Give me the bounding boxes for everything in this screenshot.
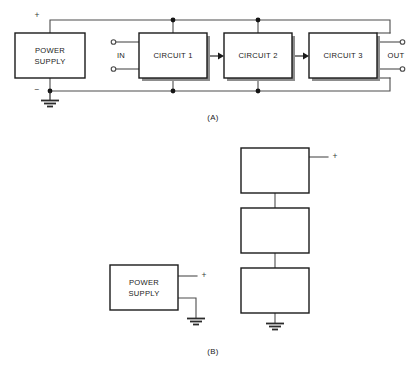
out-terminal-bottom-icon <box>400 67 405 72</box>
input-terminals <box>111 40 139 72</box>
caption-panel-b: (B) <box>207 347 218 356</box>
block-stage-bottom <box>241 268 309 313</box>
out-terminal-top-icon <box>400 40 405 45</box>
out-label: OUT <box>388 51 405 60</box>
panel-a: POWER SUPPLY CIRCUIT 1 CIRCUIT 2 CIRCUIT… <box>15 10 405 122</box>
block-circuit-3-label: CIRCUIT 3 <box>323 51 362 60</box>
block-circuit-1: CIRCUIT 1 <box>139 33 210 81</box>
ground-symbol-b-stack <box>266 313 284 330</box>
panel-b: POWER SUPPLY + + (B) <box>110 148 338 356</box>
positive-lead-sign-stack: + <box>333 151 338 161</box>
block-circuit-3: CIRCUIT 3 <box>309 33 380 81</box>
block-power-supply-label-line2: SUPPLY <box>35 57 66 66</box>
block-power-supply: POWER SUPPLY <box>15 33 85 78</box>
block-power-supply-b: POWER SUPPLY <box>110 265 197 318</box>
caption-panel-a: (A) <box>207 113 218 122</box>
junction-dot-top-c2 <box>256 18 261 23</box>
block-stage-top <box>241 148 309 193</box>
in-label: IN <box>117 51 125 60</box>
block-power-supply-b-label-line2: SUPPLY <box>129 289 160 298</box>
positive-rail-sign: + <box>35 10 40 20</box>
block-circuit-2-label: CIRCUIT 2 <box>238 51 277 60</box>
block-power-supply-label-line1: POWER <box>35 46 65 55</box>
positive-rail <box>50 20 390 33</box>
block-circuit-2: CIRCUIT 2 <box>224 33 295 81</box>
schematic-figure: POWER SUPPLY CIRCUIT 1 CIRCUIT 2 CIRCUIT… <box>0 0 420 367</box>
positive-lead-sign-supply: + <box>202 270 207 280</box>
ground-symbol-b-supply <box>187 319 205 325</box>
junction-dot-bottom-c2 <box>256 89 261 94</box>
in-terminal-bottom-icon <box>111 67 116 72</box>
schematic-canvas: POWER SUPPLY CIRCUIT 1 CIRCUIT 2 CIRCUIT… <box>0 0 420 367</box>
block-power-supply-b-label-line1: POWER <box>129 278 159 287</box>
junction-dot-bottom-c1 <box>171 89 176 94</box>
block-circuit-1-label: CIRCUIT 1 <box>153 51 192 60</box>
negative-rail-sign: − <box>35 84 40 94</box>
junction-dot-top-c1 <box>171 18 176 23</box>
in-terminal-top-icon <box>111 40 116 45</box>
ground-symbol-a <box>41 91 59 107</box>
block-stage-middle <box>241 208 309 253</box>
